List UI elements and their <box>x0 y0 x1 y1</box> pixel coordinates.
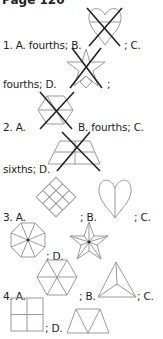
q3c-octagon-figure <box>11 223 45 257</box>
q2a-hexagon-figure <box>38 92 74 129</box>
q4b-triangle-figure <box>98 262 136 297</box>
q3b-heart-figure <box>99 180 131 218</box>
q1d-star-figure <box>67 48 105 88</box>
figures-layer <box>0 0 163 339</box>
q3d-star-figure <box>70 222 108 259</box>
q4a-hexagon-figure <box>37 260 77 295</box>
q2d-trapezoid-figure <box>48 132 100 171</box>
q4c-square-figure <box>11 298 43 331</box>
q1b-heart-figure <box>87 8 122 46</box>
q3a-diamond-grid-figure <box>36 177 76 217</box>
q4d-trapezoid-figure <box>67 309 109 333</box>
